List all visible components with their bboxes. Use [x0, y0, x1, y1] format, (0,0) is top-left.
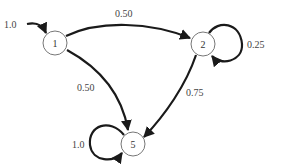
node-1-label: 1	[53, 38, 58, 49]
markov-chain-diagram: 1.0 0.50 0.50 0.25 0.75 1.0 1 2 5	[0, 0, 282, 166]
edge-label-1-2: 0.50	[115, 8, 133, 19]
edge-1-to-5: 0.50	[67, 50, 128, 130]
edge-2-to-5: 0.75	[144, 55, 204, 137]
edge-1-to-2: 0.50	[66, 8, 190, 38]
edge-label-2-5: 0.75	[186, 87, 204, 98]
node-2-label: 2	[201, 39, 206, 50]
edge-label-5-5: 1.0	[72, 139, 85, 150]
node-1: 1	[43, 31, 67, 55]
edge-label-start-1: 1.0	[4, 19, 17, 30]
node-5: 5	[121, 132, 145, 156]
edge-label-1-5: 0.50	[77, 82, 95, 93]
node-5-label: 5	[131, 139, 136, 150]
edge-label-2-2: 0.25	[247, 39, 265, 50]
edge-2-self-loop: 0.25	[209, 25, 265, 61]
node-2: 2	[191, 32, 215, 56]
edge-5-self-loop: 1.0	[72, 125, 124, 159]
edge-start-to-1: 1.0	[4, 19, 46, 33]
